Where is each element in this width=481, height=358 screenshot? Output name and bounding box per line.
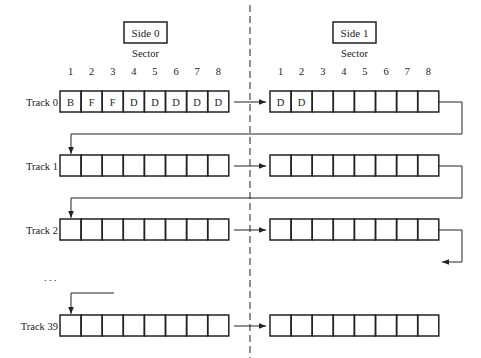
sector-number: 2 (299, 66, 304, 77)
sector-cell (354, 219, 375, 240)
side-1-sector-title: Sector (341, 48, 368, 59)
sector-number: 8 (216, 66, 221, 77)
flow-connectors (71, 102, 462, 326)
tracks: Track 0BFFDDDDDDDTrack 1Track 2Track 39 (21, 91, 439, 336)
sector-cell (166, 155, 187, 176)
sector-cell (144, 155, 165, 176)
sector-cell-value: D (214, 97, 222, 108)
side-0-label: Side 0 (132, 27, 160, 39)
sector-cell (187, 155, 208, 176)
sector-number: 3 (320, 66, 325, 77)
sector-cell-value: B (67, 97, 74, 108)
sector-cell (81, 315, 102, 336)
sector-number: 5 (152, 66, 157, 77)
sector-cell (333, 315, 354, 336)
sector-cell (333, 219, 354, 240)
sector-cell (187, 315, 208, 336)
sector-cell (333, 91, 354, 112)
sector-cell (376, 91, 397, 112)
sector-cell (354, 91, 375, 112)
sector-number: 1 (68, 66, 73, 77)
ellipsis: . . . (44, 272, 57, 283)
sector-cell (187, 219, 208, 240)
sector-number: 6 (383, 66, 388, 77)
sector-number: 8 (426, 66, 431, 77)
sector-cell (291, 155, 312, 176)
track-row: Track 0BFFDDDDDDD (26, 91, 439, 112)
sector-cell (166, 315, 187, 336)
sector-cell (60, 315, 81, 336)
sector-cell (418, 219, 439, 240)
sector-cell (333, 155, 354, 176)
sector-number: 3 (110, 66, 115, 77)
sector-cell (397, 315, 418, 336)
sector-cell (397, 219, 418, 240)
sector-cell (102, 315, 123, 336)
return-track-1-to-2 (71, 166, 462, 218)
sector-cell (354, 155, 375, 176)
sector-cell (376, 155, 397, 176)
track-label: Track 39 (21, 321, 58, 332)
sector-number: 2 (89, 66, 94, 77)
sector-cell (123, 315, 144, 336)
sector-cell-value: D (172, 97, 180, 108)
sector-cell-value: D (277, 97, 285, 108)
sector-cell (144, 219, 165, 240)
return-track-0-to-1 (71, 102, 462, 154)
sector-cell (418, 91, 439, 112)
sector-cell (144, 315, 165, 336)
side-1-header: Side 1 Sector (333, 22, 376, 59)
sector-number: 5 (362, 66, 367, 77)
sector-cell (102, 219, 123, 240)
sector-cell (208, 315, 229, 336)
sector-cell (123, 155, 144, 176)
sector-cell (312, 155, 333, 176)
track-label: Track 1 (26, 161, 58, 172)
sector-cell-value: F (89, 97, 95, 108)
sector-number: 1 (278, 66, 283, 77)
sector-cell (376, 219, 397, 240)
sector-cell-value: D (130, 97, 138, 108)
track-row: Track 1 (26, 155, 439, 176)
sector-number: 4 (131, 66, 137, 77)
sector-cell (376, 315, 397, 336)
into-track-39 (71, 293, 114, 314)
track-row: Track 2 (26, 219, 439, 240)
sector-cell (312, 219, 333, 240)
disk-layout-diagram: Side 0 Sector Side 1 Sector 123456781234… (0, 0, 481, 358)
sector-cell (102, 155, 123, 176)
sector-cell (291, 219, 312, 240)
sector-cell (60, 155, 81, 176)
sector-cell (81, 155, 102, 176)
sector-cell (291, 315, 312, 336)
sector-cell (270, 315, 291, 336)
sector-cell (354, 315, 375, 336)
sector-cell (123, 219, 144, 240)
track-label: Track 0 (26, 97, 58, 108)
sector-cell (312, 91, 333, 112)
sector-number: 7 (405, 66, 410, 77)
sector-cell (418, 155, 439, 176)
track-row: Track 39 (21, 315, 439, 336)
sector-cell (270, 155, 291, 176)
sector-cell (397, 91, 418, 112)
side-0-sector-title: Sector (132, 48, 159, 59)
side-1-label: Side 1 (341, 27, 369, 39)
sector-cell (208, 155, 229, 176)
sector-number: 7 (195, 66, 200, 77)
sector-cell (397, 155, 418, 176)
sector-cell (418, 315, 439, 336)
sector-number: 4 (341, 66, 347, 77)
track-label: Track 2 (26, 225, 58, 236)
sector-cell (312, 315, 333, 336)
sector-cell-value: D (193, 97, 201, 108)
sector-cell (208, 219, 229, 240)
sector-number: 6 (173, 66, 178, 77)
side-0-header: Side 0 Sector (124, 22, 167, 59)
sector-cell (270, 219, 291, 240)
sector-cell-value: D (298, 97, 306, 108)
sector-cell (166, 219, 187, 240)
sector-cell (81, 219, 102, 240)
return-track-2-continue (439, 230, 462, 262)
sector-cell-value: D (151, 97, 159, 108)
